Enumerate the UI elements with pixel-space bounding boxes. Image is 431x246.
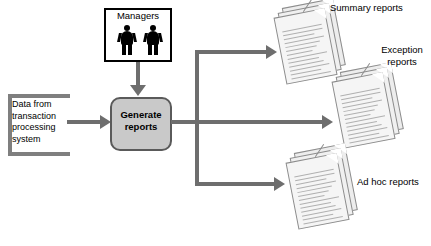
generate-reports-label: Generate reports <box>110 109 172 133</box>
connector-source-to-process-line <box>67 120 101 124</box>
data-source-label: Data from transaction processing system <box>12 99 72 145</box>
person-leg-right <box>128 43 132 55</box>
person-icon <box>118 25 136 55</box>
connector-process-to-adhoc-arrowhead <box>274 177 285 191</box>
diagram-canvas: Data from transaction processing system … <box>0 0 431 246</box>
managers-label: Managers <box>104 10 172 21</box>
person-leg-left <box>122 43 126 55</box>
document-text-lines <box>294 169 343 228</box>
document-text-lines <box>340 88 389 147</box>
document-text-lines <box>282 24 331 83</box>
person-icon <box>144 25 162 55</box>
person-leg-right <box>154 43 158 55</box>
connector-branch-spine <box>195 50 199 186</box>
connector-managers-to-process-arrowhead <box>130 85 146 96</box>
summary-reports-label: Summary reports <box>330 2 430 14</box>
connector-managers-to-process-line <box>136 62 140 87</box>
connector-process-to-exception-line <box>195 120 323 124</box>
connector-process-to-exception-arrowhead <box>322 115 333 129</box>
connector-process-to-summary-line <box>195 50 267 54</box>
connector-process-to-summary-arrowhead <box>266 45 277 59</box>
person-leg-left <box>148 43 152 55</box>
connector-process-to-adhoc-line <box>195 182 275 186</box>
exception-reports-label: Exception reports <box>373 44 431 67</box>
adhoc-reports-label: Ad hoc reports <box>357 176 431 188</box>
